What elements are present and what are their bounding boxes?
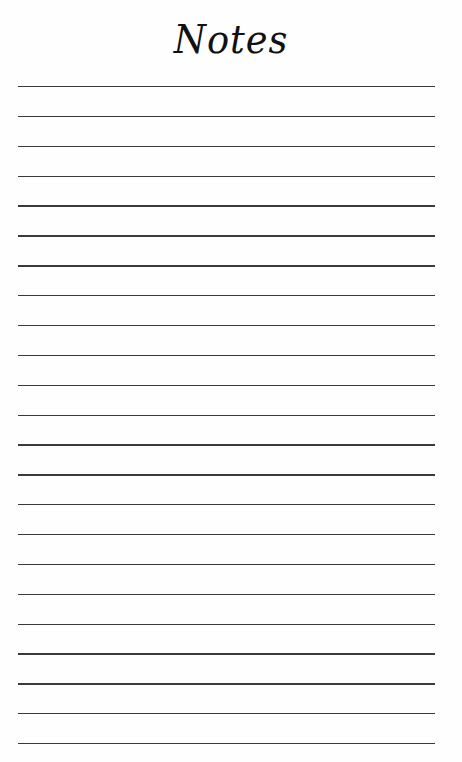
ruled-line — [18, 295, 435, 296]
ruled-line — [18, 504, 435, 505]
ruled-line — [18, 564, 435, 565]
ruled-line — [18, 743, 435, 744]
ruled-line — [18, 415, 435, 416]
ruled-line — [18, 624, 435, 625]
ruled-lines — [0, 0, 462, 762]
ruled-line — [18, 683, 435, 684]
ruled-line — [18, 385, 435, 386]
ruled-line — [18, 653, 435, 654]
ruled-line — [18, 534, 435, 535]
ruled-line — [18, 594, 435, 595]
ruled-line — [18, 444, 435, 445]
ruled-line — [18, 355, 435, 356]
ruled-line — [18, 146, 435, 147]
ruled-line — [18, 235, 435, 236]
ruled-line — [18, 325, 435, 326]
ruled-line — [18, 474, 435, 475]
ruled-line — [18, 713, 435, 714]
notes-page: Notes — [0, 0, 462, 762]
ruled-line — [18, 86, 435, 87]
ruled-line — [18, 116, 435, 117]
ruled-line — [18, 265, 435, 266]
ruled-line — [18, 176, 435, 177]
ruled-line — [18, 205, 435, 206]
